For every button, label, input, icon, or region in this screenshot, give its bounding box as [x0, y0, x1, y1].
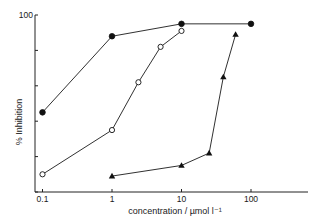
filled-triangle-marker [178, 162, 184, 168]
series-line [43, 24, 252, 113]
filled-circle-marker [248, 21, 254, 27]
x-axis-title: concentration / µmol l⁻¹ [128, 206, 222, 216]
x-tick-label: 0.1 [37, 194, 49, 204]
open-circle-marker [109, 127, 114, 132]
inhibition-chart: 1000.1110100 concentration / µmol l⁻¹ % … [0, 0, 324, 224]
series-line [112, 34, 236, 176]
series-filled-triangles [109, 31, 239, 178]
filled-triangle-marker [206, 150, 212, 156]
y-tick-label: 100 [19, 10, 33, 20]
series-filled-circles [40, 21, 254, 115]
series-open-circles [40, 28, 184, 177]
x-tick-label: 10 [177, 194, 187, 204]
filled-circle-marker [109, 33, 115, 39]
open-circle-marker [179, 28, 184, 33]
filled-triangle-marker [232, 31, 238, 37]
x-tick-label: 1 [110, 194, 115, 204]
open-circle-marker [40, 172, 45, 177]
filled-circle-marker [179, 21, 185, 27]
filled-triangle-marker [220, 74, 226, 80]
y-axis-title: % Inhibition [14, 99, 24, 146]
x-tick-label: 100 [244, 194, 258, 204]
plot-area [40, 21, 254, 178]
open-circle-marker [158, 44, 163, 49]
filled-circle-marker [40, 110, 46, 116]
open-circle-marker [136, 80, 141, 85]
series-line [43, 31, 182, 174]
axes: 1000.1110100 [19, 10, 308, 204]
